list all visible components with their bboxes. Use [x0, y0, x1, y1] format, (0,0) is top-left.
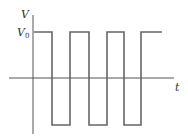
square-wave-diagram: V V0 t: [0, 0, 188, 137]
y-axis-label: V: [21, 8, 30, 21]
v0-label: V0: [17, 26, 29, 40]
t-axis-label: t: [175, 81, 180, 94]
v0-label-subscript: 0: [25, 32, 29, 40]
